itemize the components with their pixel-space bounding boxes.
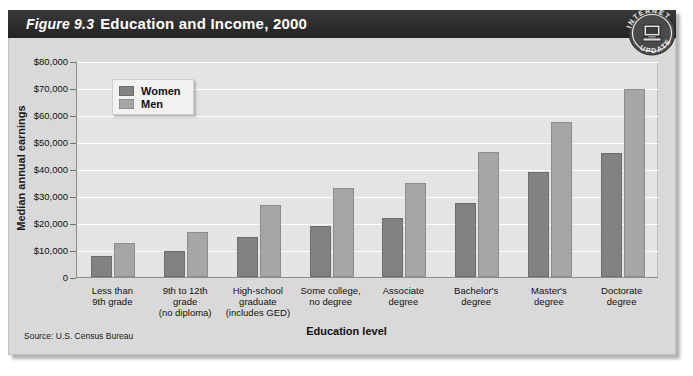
y-axis-tick-label: $30,000 — [4, 191, 68, 202]
bar-men-1[interactable] — [187, 232, 208, 277]
bar-women-7[interactable] — [601, 153, 622, 277]
bar-men-7[interactable] — [624, 89, 645, 277]
internet-update-stamp-icon: INTERNET UPDATE — [621, 8, 683, 56]
bar-women-5[interactable] — [455, 203, 476, 277]
bar-women-3[interactable] — [310, 226, 331, 277]
legend-item-men[interactable]: Men — [119, 97, 181, 110]
x-axis-tick-label-line: degree — [579, 296, 664, 307]
bar-men-3[interactable] — [333, 188, 354, 277]
y-axis-tick-label: $50,000 — [4, 137, 68, 148]
y-axis-tick-label: $10,000 — [4, 245, 68, 256]
page-title: Figure 9.3Education and Income, 2000 — [26, 15, 307, 32]
legend: Women Men — [112, 79, 194, 115]
y-axis-tick-label: $70,000 — [4, 83, 68, 94]
figure-number: Figure 9.3 — [26, 16, 94, 32]
y-axis-tick-mark — [70, 170, 76, 171]
internet-update-badge[interactable]: INTERNET UPDATE — [621, 8, 683, 56]
y-axis-tick-mark — [70, 116, 76, 117]
x-axis-tick-label-7: Doctoratedegree — [579, 285, 664, 307]
bar-women-1[interactable] — [164, 251, 185, 277]
y-axis-tick-mark — [70, 89, 76, 90]
bar-women-4[interactable] — [382, 218, 403, 277]
bar-men-6[interactable] — [551, 122, 572, 277]
y-axis-tick-mark — [70, 278, 76, 279]
legend-label-men: Men — [141, 98, 163, 110]
bar-men-0[interactable] — [114, 243, 135, 277]
x-axis-tick-label-line: (includes GED) — [216, 307, 301, 318]
y-axis-tick-label: $60,000 — [4, 110, 68, 121]
legend-swatch-men — [119, 99, 134, 109]
x-axis-tick-label-line: Doctorate — [579, 285, 664, 296]
source-note: Source: U.S. Census Bureau — [24, 331, 133, 341]
bar-men-2[interactable] — [260, 205, 281, 277]
y-axis-tick-mark — [70, 62, 76, 63]
computer-icon — [643, 25, 661, 41]
y-axis-label: Median annual earnings — [15, 93, 27, 243]
y-axis-tick-label: $40,000 — [4, 164, 68, 175]
bar-women-6[interactable] — [528, 172, 549, 277]
legend-label-women: Women — [141, 85, 181, 97]
legend-item-women[interactable]: Women — [119, 84, 181, 97]
legend-swatch-women — [119, 86, 134, 96]
y-axis-tick-label: $80,000 — [4, 56, 68, 67]
figure-container: Figure 9.3Education and Income, 2000 INT… — [0, 0, 693, 376]
y-axis-tick-mark — [70, 251, 76, 252]
bar-men-4[interactable] — [405, 183, 426, 278]
y-axis-tick-label: 0 — [4, 272, 68, 283]
y-axis-tick-mark — [70, 197, 76, 198]
bar-women-0[interactable] — [91, 256, 112, 277]
y-axis-tick-mark — [70, 224, 76, 225]
bar-men-5[interactable] — [478, 152, 499, 277]
figure-title-text: Education and Income, 2000 — [100, 15, 307, 32]
bar-women-2[interactable] — [237, 237, 258, 277]
y-axis-tick-label: $20,000 — [4, 218, 68, 229]
y-axis-tick-mark — [70, 143, 76, 144]
figure-titlebar: Figure 9.3Education and Income, 2000 — [8, 10, 676, 38]
